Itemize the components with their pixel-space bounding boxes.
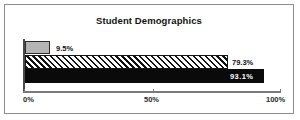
bar-label-series-1: 9.5%	[56, 44, 73, 53]
chart-title: Student Demographics	[5, 15, 293, 26]
bar-series-3[interactable]	[25, 69, 264, 83]
bar-series-2[interactable]	[25, 55, 228, 69]
bar-group: 9.5% 79.3% 93.1%	[25, 41, 281, 91]
bar-row: 93.1%	[25, 69, 281, 83]
plot-area: 9.5% 79.3% 93.1%	[23, 39, 283, 91]
bar-label-series-2: 79.3%	[232, 58, 253, 67]
x-axis-tick-labels: 0% 50% 100%	[23, 95, 285, 109]
x-axis-tick-label-100: 100%	[266, 95, 285, 104]
x-axis-tick-label-0: 0%	[23, 95, 34, 104]
chart-frame: Student Demographics 9.5% 79.3% 93.1% 0%…	[4, 4, 294, 114]
bar-row: 79.3%	[25, 55, 281, 69]
bar-row: 9.5%	[25, 41, 281, 55]
x-axis-line	[23, 91, 281, 93]
bar-label-series-3: 93.1%	[230, 72, 253, 81]
x-axis-tick-label-50: 50%	[144, 95, 159, 104]
bar-series-1[interactable]	[25, 41, 50, 54]
